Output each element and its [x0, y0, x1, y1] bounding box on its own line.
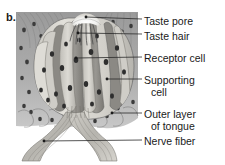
- figure-letter: b.: [6, 12, 16, 23]
- label-taste-pore-text: Taste pore: [144, 15, 193, 27]
- leader-nerve-fiber: [44, 140, 142, 141]
- label-supporting-cell-text-line2: cell: [144, 86, 195, 98]
- label-taste-hair: Taste hair: [144, 30, 190, 42]
- taste-bud-body: [34, 13, 134, 119]
- label-receptor-cell-text: Receptor cell: [144, 52, 205, 64]
- label-taste-hair-text: Taste hair: [144, 30, 190, 42]
- label-outer-layer-text: Outer layer: [144, 108, 196, 120]
- label-supporting-cell-text: Supporting: [144, 74, 195, 86]
- label-supporting-cell: Supporting cell: [144, 74, 195, 98]
- label-receptor-cell: Receptor cell: [144, 52, 205, 64]
- label-nerve-fiber: Nerve fiber: [144, 135, 195, 147]
- label-outer-layer-of-tongue: Outer layer of tongue: [144, 108, 196, 132]
- label-taste-pore: Taste pore: [144, 15, 193, 27]
- figure-panel: b. Taste pore Taste hair Receptor cell S…: [0, 0, 225, 165]
- label-nerve-fiber-text: Nerve fiber: [144, 135, 195, 147]
- label-outer-layer-text-line2: of tongue: [144, 120, 196, 132]
